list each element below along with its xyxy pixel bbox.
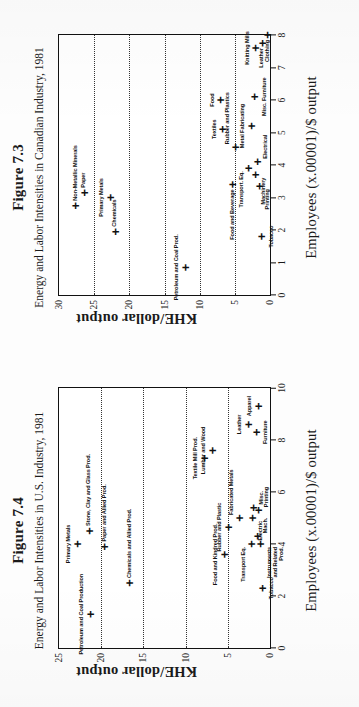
plus-marker-icon: + xyxy=(73,540,82,549)
data-point-label: Petroleum and Coal Prod. xyxy=(173,234,179,300)
gridline xyxy=(165,35,166,295)
x-axis-tick: 10 xyxy=(270,383,287,393)
y-axis-tick-label: 10 xyxy=(181,648,191,663)
data-point-label: Misc. Furniture xyxy=(261,77,267,116)
gridline xyxy=(200,35,201,295)
data-point-label: Clothing xyxy=(264,40,270,62)
plus-marker-icon: + xyxy=(263,31,272,40)
plus-marker-icon: + xyxy=(255,182,264,191)
x-axis-tick-label: 4 xyxy=(277,542,287,547)
data-point-label: Paper xyxy=(80,173,86,188)
data-point-label: Instruments and Related Prod. xyxy=(266,547,285,578)
plus-marker-icon: + xyxy=(181,263,190,272)
data-point-label: Primary Metals xyxy=(98,178,104,216)
plus-marker-icon: + xyxy=(258,584,267,593)
tick-mark xyxy=(270,100,276,101)
plus-marker-icon: + xyxy=(257,232,266,241)
x-axis-tick-label: 10 xyxy=(277,383,287,393)
data-point-label: Lumber and Wood xyxy=(200,427,206,475)
plus-marker-icon: + xyxy=(111,227,120,236)
data-point-label: Electrical xyxy=(262,135,268,159)
x-axis-tick-label: 6 xyxy=(277,98,287,103)
figure-block-7-4: Figure 7.4 Energy and Labor Intensities … xyxy=(0,354,359,707)
plus-marker-icon: + xyxy=(250,92,259,101)
plot-area-7-3: 051015202530012345678+Non-Metallic Miner… xyxy=(58,34,271,296)
y-axis-title: KHE/dollar output xyxy=(37,663,237,680)
tick-mark xyxy=(270,440,276,441)
x-axis-tick: 6 xyxy=(270,490,287,495)
data-point-label: Tobacco xyxy=(268,577,274,599)
tick-mark xyxy=(270,544,276,545)
gridline xyxy=(228,388,229,648)
plus-marker-icon: + xyxy=(254,506,263,515)
data-point-label: Chemicals xyxy=(111,200,117,227)
plus-marker-icon: + xyxy=(208,446,217,455)
data-point-label: Primary Metals xyxy=(65,525,71,563)
plus-marker-icon: + xyxy=(85,527,94,536)
x-axis-tick: 6 xyxy=(270,98,287,103)
plus-marker-icon: + xyxy=(254,402,263,411)
plus-marker-icon: + xyxy=(256,540,265,549)
data-point-label: Apparel xyxy=(246,396,252,416)
data-point-label: Chemicals and Allied Prod. xyxy=(126,509,132,578)
plus-marker-icon: + xyxy=(100,542,109,551)
data-point-label: Rubber and Plastic xyxy=(216,503,222,552)
data-point-label: Textiles xyxy=(211,119,217,139)
gridline xyxy=(186,388,187,648)
x-axis-tick: 1 xyxy=(270,260,287,265)
plus-marker-icon: + xyxy=(71,201,80,210)
plus-marker-icon: + xyxy=(80,188,89,197)
data-point-label: Petroleum and Coal Production xyxy=(78,574,84,655)
plot-area-7-4: 05101520250246810+Primary Metals+Stone, … xyxy=(58,387,271,649)
y-axis-tick-label: 25 xyxy=(54,648,64,663)
plus-marker-icon: + xyxy=(253,157,262,166)
tick-mark xyxy=(270,262,276,263)
gridline xyxy=(143,388,144,648)
data-point-label: Transport. Eq. xyxy=(238,171,244,207)
data-point-label: Furniture xyxy=(262,420,268,444)
plus-marker-icon: + xyxy=(86,610,95,619)
x-axis-tick-label: 3 xyxy=(277,195,287,200)
data-point-label: Leather xyxy=(236,415,242,435)
y-axis-tick-label: 5 xyxy=(223,648,233,658)
data-point-label: Food and Beverage xyxy=(229,190,235,240)
gridline xyxy=(235,35,236,295)
figure-subtitle: Energy and Labor Intensities in Canadian… xyxy=(33,1,45,354)
x-axis-title: Employees (x.00001)/$ output xyxy=(303,11,320,324)
data-point-label: Printing xyxy=(263,487,269,507)
y-axis-tick-label: 15 xyxy=(138,648,148,663)
y-axis-tick-label: 25 xyxy=(89,295,99,310)
data-point-label: Paper and Allied Prod. xyxy=(101,484,107,541)
tick-mark xyxy=(270,197,276,198)
tick-mark xyxy=(270,648,276,649)
x-axis-tick-label: 0 xyxy=(277,646,287,651)
x-axis-tick-label: 8 xyxy=(277,33,287,38)
x-axis-tick: 8 xyxy=(270,438,287,443)
data-point-label: Rubber and Plastics xyxy=(224,92,230,144)
data-point-label: Stone, Clay and Glass Prod. xyxy=(85,454,91,526)
x-axis-tick-label: 1 xyxy=(277,260,287,265)
gridline xyxy=(94,35,95,295)
x-axis-tick-label: 2 xyxy=(277,228,287,233)
plus-marker-icon: + xyxy=(228,180,237,189)
scanned-page-rotation-wrapper: Figure 7.4 Energy and Labor Intensities … xyxy=(0,0,359,707)
plus-marker-icon: + xyxy=(125,579,134,588)
y-axis-tick-label: 20 xyxy=(124,295,134,310)
data-point-label: Textile Mill Prod. xyxy=(192,437,198,479)
x-axis-tick: 5 xyxy=(270,130,287,135)
x-axis-tick: 4 xyxy=(270,542,287,547)
data-point-label: Tobacco xyxy=(268,226,274,248)
x-axis-tick-label: 4 xyxy=(277,163,287,168)
tick-mark xyxy=(270,492,276,493)
x-axis-title: Employees (x.00001)/$ output xyxy=(303,364,320,677)
x-axis-tick: 7 xyxy=(270,65,287,70)
y-axis-title: KHE/dollar output xyxy=(37,310,237,327)
data-point-label: Food xyxy=(209,93,215,106)
y-axis-tick-label: 20 xyxy=(96,648,106,663)
data-point-label: Transport Eq. xyxy=(240,547,246,582)
data-point-label: Mach. xyxy=(262,518,268,533)
x-axis-tick: 0 xyxy=(270,293,287,298)
x-axis-tick-label: 8 xyxy=(277,438,287,443)
plus-marker-icon: + xyxy=(248,514,257,523)
x-axis-tick: 4 xyxy=(270,163,287,168)
